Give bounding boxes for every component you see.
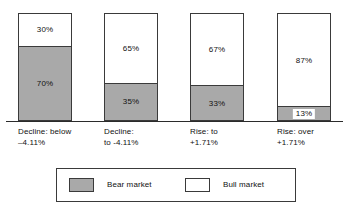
bar-decline-below-4-11[interactable]: 30% 70% <box>18 13 72 121</box>
bar-segment-bull-label: 30% <box>37 25 53 34</box>
chart-legend: Bear market Bull market <box>56 168 296 202</box>
bar-segment-bear[interactable]: 35% <box>105 83 157 120</box>
bear-market-swatch-icon <box>69 178 94 192</box>
bar-rise-to-1-71[interactable]: 67% 33% <box>190 13 244 121</box>
axis-baseline <box>6 121 343 122</box>
legend-entry-bull-market[interactable]: Bull market <box>185 178 264 192</box>
bar-segment-bear[interactable]: 33% <box>191 85 243 120</box>
bar-segment-bear[interactable]: 70% <box>19 46 71 120</box>
bar-segment-bull[interactable]: 87% <box>278 14 330 106</box>
bar-rise-over-1-71[interactable]: 87% 13% <box>277 13 331 121</box>
bar-segment-bull-label: 67% <box>209 45 225 54</box>
bar-segment-bear-label: 33% <box>209 99 225 108</box>
bar-decline-to-4-11[interactable]: 65% 35% <box>104 13 158 121</box>
bar-segment-bear-label: 70% <box>37 79 53 88</box>
legend-label-bear-market: Bear market <box>107 180 152 190</box>
bar-segment-bear-label: 13% <box>293 109 315 119</box>
plot-area: 30% 70% 65% 35% 67% 33% <box>0 0 349 124</box>
category-label-rise-to-1-71: Rise: to +1.71% <box>190 127 280 148</box>
stacked-bar-chart: 30% 70% 65% 35% 67% 33% <box>0 0 349 216</box>
bar-segment-bull-label: 65% <box>123 44 139 53</box>
bull-market-swatch-icon <box>185 178 210 192</box>
bar-segment-bull-label: 87% <box>296 56 312 65</box>
bar-segment-bull[interactable]: 30% <box>19 14 71 46</box>
category-label-rise-over-1-71: Rise: over +1.71% <box>277 127 349 148</box>
category-label-decline-below-4-11: Decline: below –4.11% <box>18 127 108 148</box>
category-label-decline-to-4-11: Decline: to -4.11% <box>104 127 194 148</box>
legend-entry-bear-market[interactable]: Bear market <box>69 178 152 192</box>
legend-label-bull-market: Bull market <box>223 180 264 190</box>
bar-segment-bear-label: 35% <box>123 97 139 106</box>
bar-segment-bear[interactable]: 13% <box>278 106 330 120</box>
bar-segment-bull[interactable]: 65% <box>105 14 157 83</box>
bar-segment-bull[interactable]: 67% <box>191 14 243 85</box>
